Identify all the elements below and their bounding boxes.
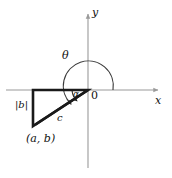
alpha-angle-label: α [73, 90, 79, 99]
theta-angle-label: θ [62, 50, 69, 61]
opposite-side-label: |b| [15, 100, 28, 110]
diagram-canvas [0, 0, 172, 178]
y-axis-label: y [92, 7, 98, 18]
point-ab-label: (a, b) [26, 133, 55, 144]
trig-diagram-figure: y x θ α 0 |b| c (a, b) [0, 0, 172, 178]
origin-label: 0 [91, 90, 98, 101]
x-axis-label: x [155, 95, 161, 106]
hypotenuse-label: c [57, 113, 63, 123]
